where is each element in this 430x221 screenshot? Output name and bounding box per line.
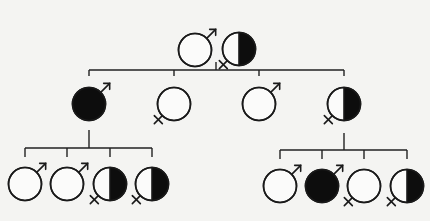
male-symbol-icon [334,165,343,174]
person-II-1-male-affected [73,83,110,120]
pedigree-members [9,29,424,205]
carrier-half-fill [344,88,361,121]
carrier-half-fill [407,170,424,203]
male-symbol-icon [207,29,216,38]
person-III-1-male-unaffected [9,163,46,200]
pedigree-chart [0,0,430,221]
female-symbol-icon [324,116,332,124]
female-symbol-icon [344,198,352,206]
person-III-6-male-affected [306,165,343,202]
person-I-2-female-carrier [219,33,255,69]
male-symbol-icon [79,163,88,172]
carrier-half-fill [239,33,256,66]
female-symbol-icon [132,196,140,204]
male-symbol-icon [101,83,110,92]
person-III-2-male-unaffected [51,163,88,200]
connector-II-1 [25,130,152,157]
female-symbol-icon [90,196,98,204]
person-II-4-female-carrier [324,88,360,124]
person-III-3-female-carrier [90,168,126,204]
person-III-8-female-carrier [387,170,423,206]
person-II-3-male-unaffected [243,83,280,120]
female-symbol-icon [387,198,395,206]
person-II-2-female-unaffected [154,88,190,124]
carrier-half-fill [110,168,127,201]
male-symbol-icon [292,165,301,174]
person-I-1-male-unaffected [179,29,216,66]
person-III-5-male-unaffected [264,165,301,202]
female-symbol-icon [219,61,227,69]
male-symbol-icon [37,163,46,172]
female-symbol-icon [154,116,162,124]
person-III-7-female-unaffected [344,170,380,206]
connector-II-4 [280,133,407,159]
connector-I [89,62,344,76]
carrier-half-fill [152,168,169,201]
person-III-4-female-carrier [132,168,168,204]
male-symbol-icon [271,83,280,92]
